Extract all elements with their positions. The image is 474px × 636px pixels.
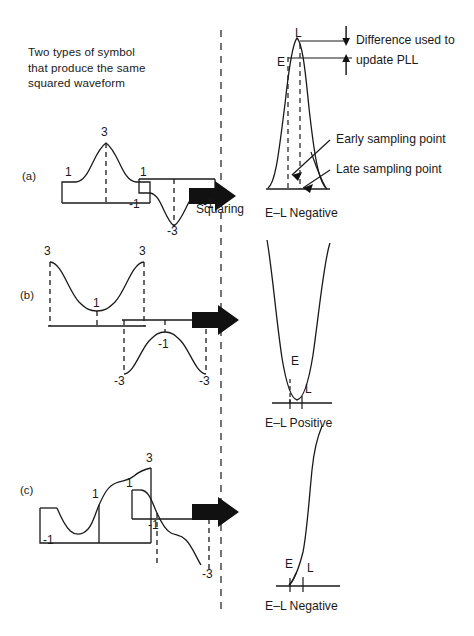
row-c-output-status: E–L Negative	[265, 600, 338, 613]
row-a-inverted-peak-value: -3	[167, 225, 178, 238]
row-c-early-mark: E	[285, 558, 293, 571]
row-a-inverted-left-value: -1	[129, 198, 140, 211]
early-sampling-annotation: Early sampling point	[336, 133, 446, 146]
row-b-early-mark: E	[291, 355, 299, 368]
figure-note-line-3: squared waveform	[28, 75, 218, 91]
difference-double-arrow	[342, 26, 350, 75]
row-tag-c: (c)	[20, 484, 33, 497]
late-sampling-annotation: Late sampling point	[336, 163, 442, 176]
row-a-output-waveform	[266, 38, 330, 189]
row-c-input-waveform	[40, 468, 151, 543]
difference-annotation-line-1: Difference used to	[356, 34, 455, 47]
row-c-late-mark: L	[307, 562, 314, 575]
row-b-input-waveform	[48, 262, 146, 326]
sampling-leader-arrowheads	[292, 172, 313, 193]
row-b-output-waveform	[267, 240, 332, 403]
row-c-inverted-mid-value: -1	[148, 519, 159, 532]
row-c-inverted-waveform	[132, 490, 209, 572]
row-c-peak-value: 3	[146, 452, 153, 465]
squaring-process-label: Squaring	[196, 203, 244, 216]
figure-note-line-2: that produce the same	[28, 60, 218, 76]
row-b-late-mark: L	[305, 383, 312, 396]
row-tag-a: (a)	[22, 170, 36, 183]
row-a-late-mark: L	[295, 27, 302, 40]
row-a-difference-level-lines	[288, 41, 352, 58]
row-b-peak-value: 1	[93, 297, 100, 310]
row-b-inverted-peak-value: -1	[158, 338, 169, 351]
row-a-output-status: E–L Negative	[265, 207, 338, 220]
squaring-arrow-2	[192, 305, 239, 335]
row-c-mid-value: 1	[92, 488, 99, 501]
row-b-inverted-left-value: -3	[114, 375, 125, 388]
difference-annotation-line-2: update PLL	[356, 54, 418, 67]
row-b-right-value: 3	[139, 245, 146, 258]
row-a-peak-value: 3	[101, 126, 108, 139]
row-c-inverted-low-value: -3	[202, 568, 213, 581]
figure-note-line-1: Two types of symbol	[28, 44, 218, 60]
row-c-sampling-marks	[290, 577, 303, 592]
figure-canvas	[0, 0, 474, 636]
row-b-output-status: E–L Positive	[265, 417, 332, 430]
row-c-low-value: -1	[43, 534, 54, 547]
row-a-right-value: 1	[140, 166, 147, 179]
squaring-arrow-3	[192, 497, 239, 527]
row-c-inverted-top-value: 1	[126, 477, 133, 490]
sampling-leader-lines	[292, 140, 330, 188]
figure-note: Two types of symbol that produce the sam…	[28, 44, 218, 91]
row-a-left-value: 1	[65, 166, 72, 179]
row-a-input-waveform	[62, 143, 150, 203]
row-tag-b: (b)	[20, 289, 34, 302]
row-b-left-value: 3	[44, 245, 51, 258]
row-a-early-mark: E	[277, 56, 285, 69]
row-b-inverted-right-value: -3	[199, 375, 210, 388]
